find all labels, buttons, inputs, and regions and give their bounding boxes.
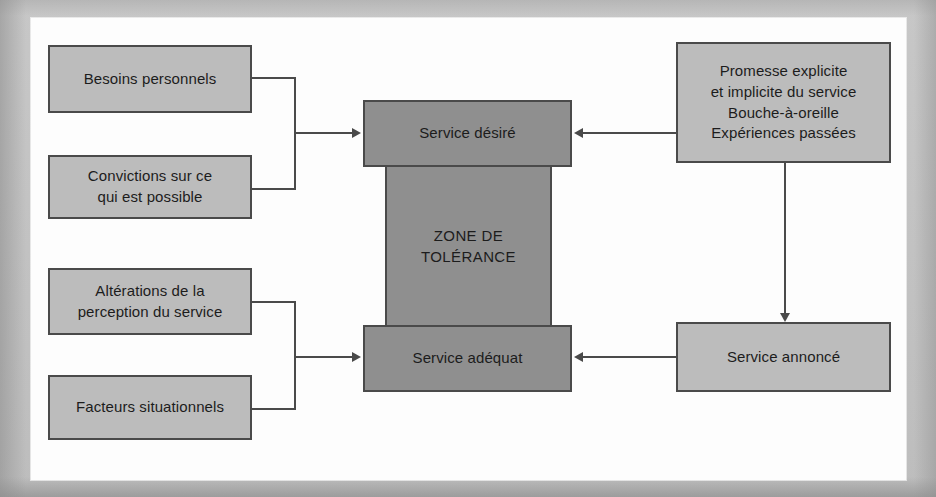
edge-junction-to-service-desire (294, 132, 354, 134)
arrowhead-into-service-adequat-left (352, 352, 361, 362)
node-alterations-perception[interactable]: Altérations de la perception du service (48, 268, 252, 335)
node-label-block: Convictions sur ce qui est possible (88, 166, 212, 207)
node-label-line-2: qui est possible (88, 187, 212, 208)
node-label-line-2: perception du service (78, 302, 223, 323)
node-label-line-4: Expériences passées (711, 123, 857, 144)
node-label: Service désiré (419, 123, 515, 144)
edge-convictions-to-junction (252, 188, 296, 190)
node-service-adequat[interactable]: Service adéquat (363, 325, 572, 392)
node-label-line-1: Convictions sur ce (88, 166, 212, 187)
node-label-block: ZONE DE TOLÉRANCE (421, 225, 516, 268)
node-label-line-2: et implicite du service (711, 82, 857, 103)
edge-junction-to-service-adequat (294, 356, 354, 358)
node-label: Service annoncé (727, 347, 840, 368)
arrowhead-into-service-desire-right (574, 128, 583, 138)
node-label: Service adéquat (413, 348, 523, 369)
node-promesse-explicite[interactable]: Promesse explicite et implicite du servi… (676, 42, 891, 163)
edge-facteurs-to-junction (252, 408, 296, 410)
node-facteurs-situationnels[interactable]: Facteurs situationnels (48, 375, 252, 440)
arrowhead-into-service-annonce-top (780, 313, 790, 322)
node-label-line-3: Bouche-à-oreille (711, 103, 857, 124)
edge-promesse-to-service-desire (583, 132, 676, 134)
node-label-block: Altérations de la perception du service (78, 281, 223, 322)
arrowhead-into-service-adequat-right (574, 352, 583, 362)
node-label-line-1: ZONE DE (421, 225, 516, 246)
edge-alterations-to-junction (252, 301, 296, 303)
edge-service-annonce-to-service-adequat (583, 356, 676, 358)
node-zone-de-tolerance[interactable]: ZONE DE TOLÉRANCE (385, 165, 552, 327)
arrowhead-into-service-desire-left (352, 128, 361, 138)
node-label-line-1: Altérations de la (78, 281, 223, 302)
node-label-line-2: TOLÉRANCE (421, 246, 516, 267)
node-label: Facteurs situationnels (76, 397, 224, 418)
edge-promesse-to-service-annonce (784, 163, 786, 313)
node-label-line-1: Promesse explicite (711, 61, 857, 82)
node-service-desire[interactable]: Service désiré (363, 100, 572, 167)
node-besoins-personnels[interactable]: Besoins personnels (48, 45, 252, 113)
edge-besoins-to-junction (252, 77, 296, 79)
node-label-block: Promesse explicite et implicite du servi… (711, 61, 857, 144)
node-label: Besoins personnels (84, 69, 217, 90)
node-service-annonce[interactable]: Service annoncé (676, 322, 891, 392)
diagram-page: Besoins personnels Convictions sur ce qu… (0, 0, 936, 497)
node-convictions[interactable]: Convictions sur ce qui est possible (48, 155, 252, 219)
